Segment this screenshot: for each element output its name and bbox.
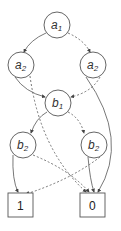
edge-b1-b2L: [31, 112, 47, 133]
edge-b2L-t0: [33, 155, 89, 192]
edge-a1-a2L: [24, 33, 46, 52]
edge-a2L-b1: [15, 77, 45, 97]
edge-b1-b2R: [68, 112, 84, 133]
label-terminal-1: 1: [17, 199, 24, 213]
edge-a1-a2R: [68, 33, 90, 52]
edge-a2R-b1: [71, 77, 100, 97]
label-terminal-0: 0: [89, 199, 96, 213]
bdd-diagram: a1 a2 a2 b1 b2 b2 1 0: [0, 0, 121, 231]
edge-b2L-t1: [13, 155, 18, 192]
